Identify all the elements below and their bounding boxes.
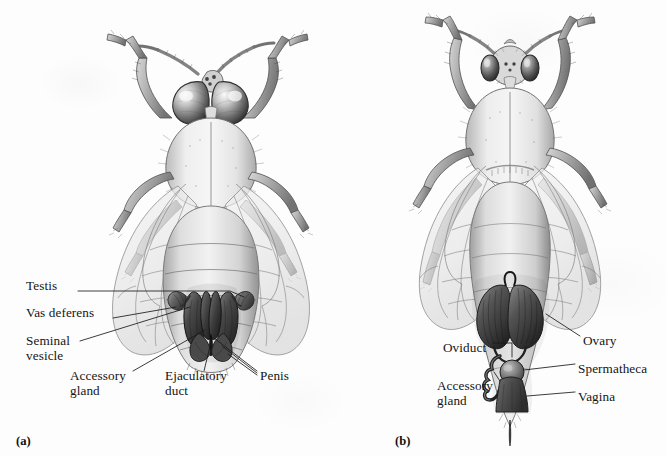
label-vesicle: vesicle [26,348,63,364]
bee-anatomy-figure: Testis Vas deferens Seminal vesicle Acce… [0,0,667,456]
panel-label-b: (b) [395,434,410,449]
label-spermatheca: Spermatheca [578,361,647,377]
label-vas-deferens: Vas deferens [26,305,94,321]
panel-label-a: (a) [16,434,31,449]
label-duct: duct [165,383,188,399]
label-penis: Penis [260,368,289,384]
label-ejaculatory: Ejaculatory [165,368,227,384]
label-accessory-b: Accessory [437,378,493,394]
label-ovary: Ovary [583,333,616,349]
label-seminal: Seminal [26,333,70,349]
label-accessory-a: Accessory [70,368,126,384]
label-vagina: Vagina [578,389,615,405]
label-oviduct: Oviduct [443,340,486,356]
label-testis: Testis [26,278,57,294]
label-gland-b: gland [437,393,467,409]
label-gland-a: gland [70,383,100,399]
queen-bee-illustration [0,0,667,456]
